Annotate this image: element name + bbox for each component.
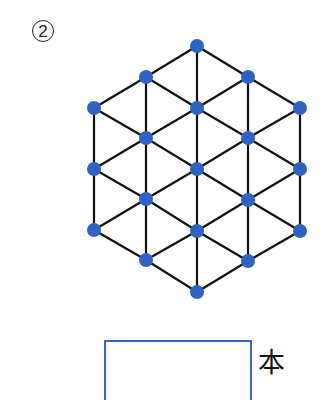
lattice-node — [293, 162, 307, 176]
lattice-edge — [197, 77, 248, 108]
lattice-node — [190, 101, 204, 115]
lattice-node — [139, 131, 153, 145]
lattice-node — [87, 162, 101, 176]
lattice-edge — [197, 169, 248, 200]
lattice-node — [190, 285, 204, 299]
lattice-edge — [146, 138, 197, 169]
lattice-edge — [248, 200, 300, 231]
lattice-edge — [146, 46, 197, 77]
lattice-edge — [94, 169, 146, 199]
lattice-edge — [146, 231, 197, 260]
lattice-edge — [146, 260, 197, 292]
lattice-edge — [197, 108, 248, 138]
lattice-node — [190, 39, 204, 53]
lattice-edge — [146, 199, 197, 231]
lattice-edge — [197, 138, 248, 169]
lattice-edge — [248, 108, 300, 138]
lattice-edge — [248, 77, 300, 108]
lattice-node — [241, 131, 255, 145]
lattice-node — [190, 162, 204, 176]
lattice-edge — [94, 138, 146, 169]
lattice-node — [293, 101, 307, 115]
lattice-edge — [146, 169, 197, 199]
lattice-edge — [197, 46, 248, 77]
lattice-edge — [248, 169, 300, 200]
lattice-edge — [94, 230, 146, 260]
lattice-node — [139, 253, 153, 267]
unit-label: 本 — [258, 349, 285, 376]
lattice-node — [293, 224, 307, 238]
lattice-edge — [197, 261, 248, 292]
lattice-edge — [248, 138, 300, 169]
lattice-node — [139, 70, 153, 84]
lattice-edge — [146, 77, 197, 108]
lattice-node — [241, 70, 255, 84]
lattice-node — [139, 192, 153, 206]
lattice-node — [190, 224, 204, 238]
lattice-node — [87, 101, 101, 115]
answer-input-box[interactable] — [104, 340, 252, 400]
lattice-edge — [94, 108, 146, 138]
lattice-edge — [248, 231, 300, 261]
lattice-node — [87, 223, 101, 237]
lattice-edge — [94, 77, 146, 108]
lattice-edge — [197, 200, 248, 231]
lattice-node — [241, 254, 255, 268]
lattice-edge — [146, 108, 197, 138]
lattice-edge — [197, 231, 248, 261]
lattice-edge — [94, 199, 146, 230]
lattice-node — [241, 193, 255, 207]
